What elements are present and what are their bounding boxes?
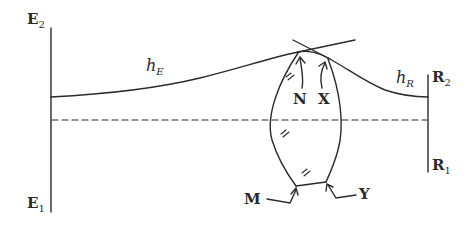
label-e1: E1 — [27, 196, 45, 211]
label-x: X — [318, 92, 330, 107]
x-arrow — [321, 63, 325, 88]
label-n: N — [293, 92, 307, 107]
label-hr: hR — [396, 70, 414, 86]
label-y: Y — [359, 187, 370, 202]
top-arc — [298, 51, 328, 58]
m-arrow — [267, 190, 296, 203]
label-he: hE — [146, 58, 164, 74]
label-m: M — [244, 192, 261, 207]
tangent-line-e — [298, 40, 355, 52]
label-r1: R1 — [432, 158, 451, 173]
n-arrow — [300, 58, 303, 88]
label-r2: R2 — [432, 70, 451, 85]
lens-bottom-segment — [296, 182, 326, 186]
hatch-marks — [281, 73, 310, 176]
he-curve — [51, 52, 298, 97]
label-e2: E2 — [27, 12, 45, 27]
diagram-canvas — [0, 0, 475, 238]
